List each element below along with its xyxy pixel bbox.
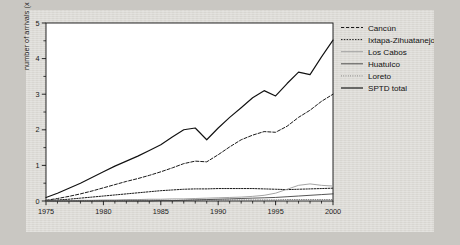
- svg-text:4: 4: [35, 54, 39, 63]
- svg-text:1975: 1975: [38, 207, 54, 216]
- legend-label-1: Ixtapa-Zihuatanejo: [368, 36, 434, 45]
- svg-text:5: 5: [35, 19, 39, 28]
- scanned-sheet: number of arrivals (x ,000) 012345197519…: [26, 10, 434, 232]
- svg-text:2000: 2000: [325, 207, 341, 216]
- legend-label-3: Huatulco: [368, 60, 400, 69]
- legend-label-5: SPTD total: [368, 84, 407, 93]
- svg-text:0: 0: [35, 197, 39, 206]
- chart-canvas: 012345197519801985199019952000 CancúnIxt…: [26, 10, 434, 232]
- figure-page: number of arrivals (x ,000) 012345197519…: [0, 0, 460, 245]
- svg-text:3: 3: [35, 90, 39, 99]
- svg-text:1980: 1980: [95, 207, 111, 216]
- svg-text:1995: 1995: [267, 207, 283, 216]
- svg-text:1: 1: [35, 161, 39, 170]
- legend-label-4: Loreto: [368, 72, 391, 81]
- svg-text:1990: 1990: [210, 207, 226, 216]
- line-chart: number of arrivals (x ,000) 012345197519…: [26, 10, 434, 232]
- legend-label-2: Los Cabos: [368, 48, 407, 57]
- svg-text:2: 2: [35, 125, 39, 134]
- y-axis-title: number of arrivals (x ,000): [22, 0, 31, 70]
- svg-text:1985: 1985: [153, 207, 169, 216]
- legend-label-0: Cancún: [368, 24, 396, 33]
- legend-layer: CancúnIxtapa-ZihuatanejoLos CabosHuatulc…: [341, 24, 434, 94]
